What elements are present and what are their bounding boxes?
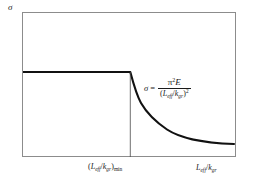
x-tick-label-slenderness-limit: (Leff/kgr)min [88,162,122,172]
equation-denominator: (Leff/kgr)2 [158,89,191,98]
x-axis-label: Leff/kgr [196,163,217,173]
denominator-exponent: 2 [186,88,189,94]
equation-lhs: σ [144,84,148,93]
axis-gr-subscript: gr [212,167,217,173]
euler-stress-equation: σ = π2E (Leff/kgr)2 [144,78,191,98]
plot-frame [22,12,236,157]
equation-numerator: π2E [165,78,184,88]
equation-equals-sign: = [150,84,155,93]
y-axis-label: σ [8,2,12,12]
column-buckling-figure: σ σ = π2E (Leff/kgr)2 (Leff/kgr)min Leff… [0,0,259,185]
equation-fraction: π2E (Leff/kgr)2 [158,78,191,98]
youngs-modulus-symbol: E [175,77,181,87]
min-subscript: min [114,166,122,172]
